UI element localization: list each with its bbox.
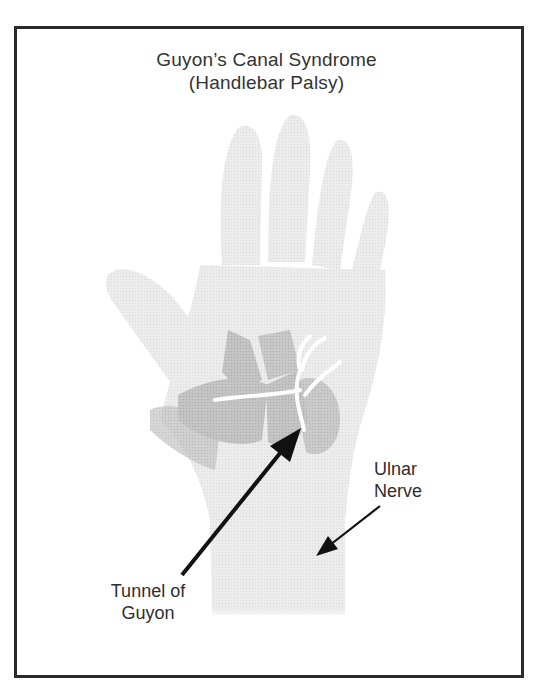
tunnel-of-guyon-label-line2: Guyon bbox=[92, 602, 204, 624]
figure-subtitle: (Handlebar Palsy) bbox=[0, 72, 533, 94]
figure-title: Guyon’s Canal Syndrome bbox=[0, 49, 533, 71]
hand-anatomy-illustration bbox=[0, 0, 533, 685]
ulnar-nerve-label-line2: Nerve bbox=[374, 480, 422, 502]
tunnel-of-guyon-label-line1: Tunnel of bbox=[92, 580, 204, 602]
tunnel-of-guyon-label: Tunnel of Guyon bbox=[92, 580, 204, 624]
ulnar-nerve-label: Ulnar Nerve bbox=[374, 458, 422, 502]
ulnar-nerve-label-line1: Ulnar bbox=[374, 458, 422, 480]
